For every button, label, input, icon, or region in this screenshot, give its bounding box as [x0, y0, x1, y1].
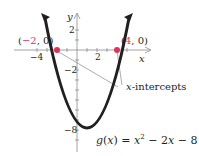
func-end: − 8 [174, 134, 197, 147]
curve-arrow-right-icon [124, 13, 133, 21]
x-tick-neg4: −4 [30, 53, 43, 62]
y-tick-neg2: −2 [64, 66, 77, 75]
x-tick-2: 2 [95, 53, 101, 62]
func-g: g [96, 134, 103, 147]
intercept-point-left [54, 47, 60, 53]
y-tick-2: 2 [69, 26, 75, 35]
function-label: g(x) = x2 − 2x − 8 [96, 134, 197, 146]
annotation-rest: -intercepts [132, 81, 187, 92]
y-axis-label: y [67, 12, 73, 22]
intercept-point-right [114, 47, 120, 53]
x-axis-label: x [139, 54, 145, 64]
annotation-x-intercepts: x-intercepts [126, 82, 186, 92]
curve-arrow-left-icon [41, 13, 50, 21]
point-label-left: (−2, 0) [18, 36, 53, 46]
parabola-curve [45, 18, 129, 128]
func-eq: ) = [114, 134, 135, 147]
point-rest: , 0) [37, 35, 54, 46]
point-label-right: (4, 0) [121, 36, 148, 46]
point-x-value: −2 [22, 35, 37, 46]
y-tick-neg8: −8 [64, 126, 77, 135]
func-mid: − 2 [145, 134, 168, 147]
point-rest: , 0) [131, 35, 148, 46]
function-graph [0, 0, 199, 156]
